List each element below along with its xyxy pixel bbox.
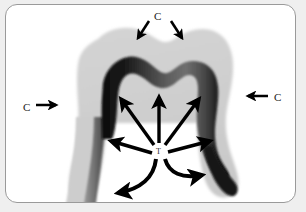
label-c-left: C <box>23 102 30 113</box>
t-arrow-down-left <box>118 159 156 193</box>
c-top-right-arrow <box>171 21 182 38</box>
c-top-left-arrow <box>138 21 149 38</box>
label-c-top: C <box>154 11 161 22</box>
figure-root: C C C T <box>0 0 306 212</box>
t-arrow-left <box>111 141 152 153</box>
t-arrow-right <box>168 141 210 152</box>
label-c-right: C <box>274 92 281 103</box>
t-arrow-down-right <box>165 159 202 176</box>
force-arrows <box>6 5 296 203</box>
label-t-center: T <box>156 148 161 156</box>
figure-card: C C C T <box>5 4 296 203</box>
diagram-stage: C C C T <box>6 5 295 202</box>
t-arrow-up-left <box>121 99 154 145</box>
t-arrow-up-right <box>165 99 199 145</box>
